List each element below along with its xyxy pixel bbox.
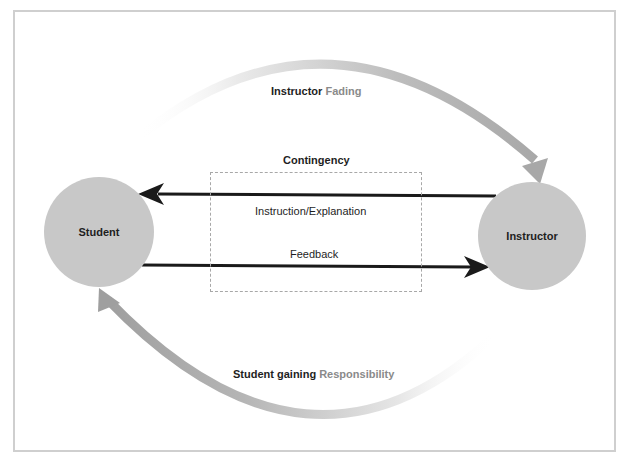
instruction-label: Instruction/Explanation: [255, 205, 366, 217]
fading-label-strong: Instructor: [271, 85, 322, 97]
student-responsibility-arrow: [98, 288, 495, 415]
student-responsibility-label: Student gaining Responsibility: [233, 368, 394, 380]
student-node: Student: [44, 177, 154, 287]
instructor-node-label: Instructor: [506, 230, 557, 242]
arrowhead-icon: [522, 158, 548, 184]
responsibility-label-muted: Responsibility: [319, 368, 394, 380]
contingency-label: Contingency: [283, 154, 350, 166]
instructor-node: Instructor: [478, 182, 586, 290]
instructor-fading-arrow: [138, 64, 548, 184]
student-node-label: Student: [79, 226, 120, 238]
feedback-label: Feedback: [290, 248, 338, 260]
responsibility-label-strong: Student gaining: [233, 368, 316, 380]
fading-label-muted: Fading: [325, 85, 361, 97]
instructor-fading-label: Instructor Fading: [271, 85, 361, 97]
contingency-box: [210, 172, 422, 292]
